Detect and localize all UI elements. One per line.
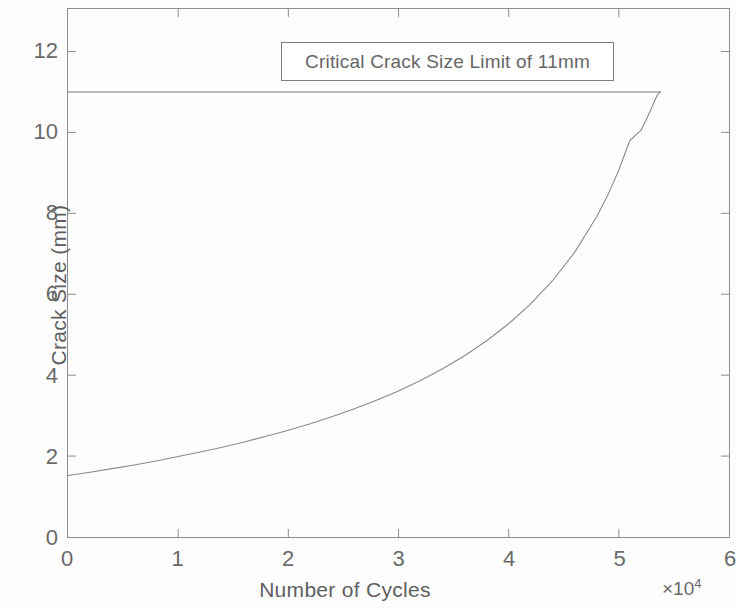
plot-area: Critical Crack Size Limit of 11mm (67, 8, 730, 538)
axis-ticks (68, 9, 729, 537)
x-axis-title: Number of Cycles (0, 578, 736, 602)
x-tick-label: 3 (379, 546, 419, 572)
x-axis-exponent-power: 4 (694, 576, 701, 591)
x-tick-label: 1 (158, 546, 198, 572)
x-axis-exponent: ×104 (662, 576, 701, 600)
x-tick-label: 6 (710, 546, 736, 572)
legend-label: Critical Crack Size Limit of 11mm (305, 51, 590, 73)
y-axis-title: Crack Size (mm) (47, 20, 71, 550)
x-axis-title-text: Number of Cycles (259, 578, 431, 602)
x-tick-label: 5 (600, 546, 640, 572)
x-tick-label: 2 (268, 546, 308, 572)
x-axis-exponent-base: ×10 (662, 578, 694, 599)
figure-container: Critical Crack Size Limit of 11mm 024681… (0, 0, 736, 608)
plot-canvas (68, 9, 729, 537)
legend-box: Critical Crack Size Limit of 11mm (281, 42, 614, 81)
x-tick-label: 4 (489, 546, 529, 572)
crack-growth-curve (68, 92, 661, 476)
